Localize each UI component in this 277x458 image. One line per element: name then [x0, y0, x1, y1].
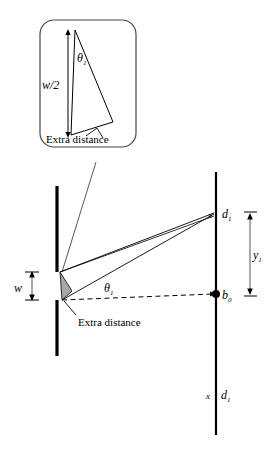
slit-width-label: w — [14, 281, 22, 295]
inset-half-width-label: w/2 — [42, 78, 59, 92]
inset-extra-distance-label: Extra distance — [46, 133, 109, 145]
extra-distance-label: Extra distance — [78, 316, 141, 328]
upper-marker-cross: x — [207, 210, 212, 220]
inset-angle-label: θ1 — [77, 51, 86, 67]
lower-marker-cross: x — [205, 391, 210, 401]
label-layer: w/2 θ1 Extra distance w θ1 Extra distanc… — [0, 0, 277, 458]
lower-marker-label: d1 — [221, 388, 231, 404]
diffraction-figure: w/2 θ1 Extra distance w θ1 Extra distanc… — [0, 0, 277, 458]
angle-theta1-label: θ1 — [104, 281, 113, 297]
central-marker-label: b0 — [222, 288, 232, 304]
upper-marker-label: d1 — [222, 207, 232, 223]
y1-dimension-label: y1 — [252, 248, 262, 264]
